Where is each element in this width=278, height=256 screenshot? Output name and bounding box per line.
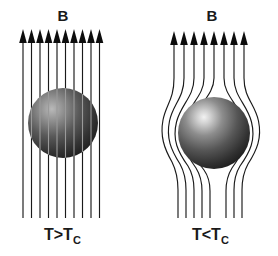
field-label-left: B bbox=[58, 7, 69, 24]
sphere-normal-state bbox=[28, 88, 98, 158]
meissner-diagram-canvas: B T>T C bbox=[0, 0, 278, 256]
field-label-right: B bbox=[207, 7, 218, 24]
meissner-effect-figure: B T>T C bbox=[0, 0, 278, 256]
condition-label-right-main: T<T bbox=[192, 226, 221, 243]
sphere-superconducting-state bbox=[178, 97, 250, 169]
condition-label-left-main: T>T bbox=[44, 226, 73, 243]
condition-label-right-subscript: C bbox=[221, 234, 229, 246]
condition-label-left-subscript: C bbox=[73, 234, 81, 246]
